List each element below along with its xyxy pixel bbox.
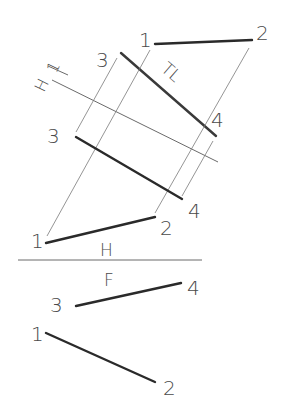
label-tl: TL <box>157 58 185 86</box>
label-aux-3-top: 3 <box>96 48 109 72</box>
label-ref-1: 1 <box>43 58 65 75</box>
projection-line-1 <box>47 50 150 236</box>
descriptive-geometry-drawing: 1 2 3 TL 4 H 1 3 4 1 2 H F 3 4 1 2 <box>0 0 296 414</box>
label-h-2: 2 <box>160 216 173 240</box>
label-fold-f: F <box>104 270 114 290</box>
reference-line-h-1 <box>52 80 218 162</box>
label-aux-2: 2 <box>256 21 269 45</box>
label-f-1: 1 <box>31 322 44 346</box>
f-view-line-1-2 <box>46 333 155 382</box>
label-f-2: 2 <box>163 376 176 400</box>
aux-line-1-2 <box>155 40 252 44</box>
label-h-1: 1 <box>31 229 44 253</box>
label-fold-h: H <box>100 240 113 260</box>
label-ref-h: H <box>31 76 53 95</box>
label-aux-1: 1 <box>139 28 152 52</box>
label-h-3: 3 <box>47 124 60 148</box>
label-h-4: 4 <box>188 199 201 223</box>
projection-line-4 <box>182 141 213 196</box>
h-view-line-3-4 <box>76 137 182 199</box>
label-f-3: 3 <box>50 293 63 317</box>
label-f-4: 4 <box>187 276 200 300</box>
f-view-line-3-4 <box>76 283 181 306</box>
